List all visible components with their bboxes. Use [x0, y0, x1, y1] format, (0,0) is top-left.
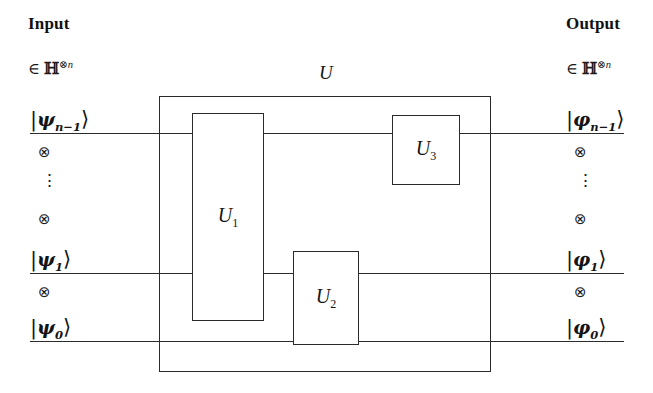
output-ket-phi-n-1: |φn−1⟩ [566, 107, 624, 134]
input-vdots: ⋮ [41, 172, 58, 189]
gate-u3: U3 [392, 115, 460, 185]
ket-angle: ⟩ [63, 247, 71, 271]
ket-symbol: ψ [37, 316, 55, 338]
input-ket-psi-0: |ψ0⟩ [30, 315, 71, 342]
output-heading: Output [566, 14, 620, 34]
ket-angle: ⟩ [598, 315, 606, 339]
ket-angle: ⟩ [81, 107, 89, 131]
gate-u1-label-sub: 1 [232, 216, 238, 230]
input-heading: Input [28, 14, 70, 34]
input-space-prefix: ∈ [28, 60, 40, 77]
input-otimes-2: ⊗ [38, 212, 51, 227]
gate-u3-label: U3 [416, 137, 436, 164]
gate-u2-label: U2 [316, 285, 336, 312]
output-otimes-2: ⊗ [574, 212, 587, 227]
output-otimes-3: ⊗ [574, 285, 587, 300]
ket-symbol: φ [573, 316, 590, 338]
input-ket-psi-n-1: |ψn−1⟩ [30, 107, 89, 134]
output-space-label: ∈ ℍ⊗n [566, 58, 611, 78]
outer-gate-u-label: U [319, 62, 333, 84]
ket-subscript: n−1 [590, 120, 616, 134]
output-space-otimes: ⊗ [597, 59, 606, 70]
output-space-n: n [606, 59, 611, 70]
input-otimes-3: ⊗ [38, 285, 51, 300]
quantum-circuit-figure: Input ∈ ℍ⊗n |ψn−1⟩ ⊗ ⋮ ⊗ |ψ1⟩ ⊗ |ψ0⟩ Out… [0, 0, 653, 393]
gate-u1-label: U1 [218, 204, 238, 231]
gate-u1-label-base: U [218, 204, 232, 226]
ket-angle: ⟩ [63, 315, 71, 339]
input-otimes-1: ⊗ [38, 145, 51, 160]
input-ket-psi-1: |ψ1⟩ [30, 247, 71, 274]
output-otimes-1: ⊗ [574, 145, 587, 160]
ket-subscript: 0 [55, 328, 63, 342]
output-vdots: ⋮ [577, 172, 594, 189]
input-hilbert-symbol: ℍ [44, 59, 59, 78]
ket-symbol: φ [573, 108, 590, 130]
input-space-label: ∈ ℍ⊗n [28, 58, 73, 78]
ket-subscript: 1 [55, 260, 63, 274]
ket-angle: ⟩ [616, 107, 624, 131]
output-ket-phi-1: |φ1⟩ [566, 247, 607, 274]
input-space-n: n [68, 59, 73, 70]
gate-u3-label-sub: 3 [430, 149, 436, 163]
gate-u2-label-sub: 2 [330, 297, 336, 311]
gate-u3-label-base: U [416, 137, 430, 159]
gate-u1: U1 [192, 113, 264, 321]
gate-u2-label-base: U [316, 285, 330, 307]
output-ket-phi-0: |φ0⟩ [566, 315, 607, 342]
ket-symbol: ψ [37, 108, 55, 130]
gate-u2: U2 [293, 251, 359, 345]
output-hilbert-symbol: ℍ [582, 59, 597, 78]
output-space-prefix: ∈ [566, 60, 578, 77]
ket-symbol: ψ [37, 248, 55, 270]
ket-angle: ⟩ [598, 247, 606, 271]
ket-subscript: n−1 [55, 120, 81, 134]
ket-symbol: φ [573, 248, 590, 270]
input-space-otimes: ⊗ [59, 59, 68, 70]
